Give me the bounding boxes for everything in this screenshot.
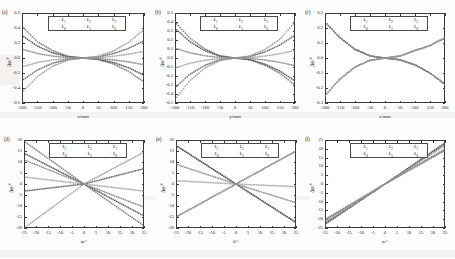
legend-marker-icon: + — [410, 145, 413, 150]
legend-item-l3[interactable]: +L3 — [402, 144, 427, 151]
legend-marker-icon: + — [360, 152, 363, 157]
legend-item-l5[interactable]: +L5 — [376, 151, 401, 158]
legend-label-l5: L5 — [389, 151, 393, 158]
legend-item-l2[interactable]: +L2 — [376, 144, 401, 151]
legend-label-subscript: 5 — [391, 154, 393, 158]
legend-item-l6[interactable]: +L6 — [402, 151, 427, 158]
legend-label-subscript: 6 — [417, 154, 419, 158]
figure-canvas: (a)Δφ/°x/mm-0.6-0.4-0.20.00.20.40.6-200-… — [0, 0, 455, 259]
legend-marker-icon: + — [385, 145, 388, 150]
legend-label-l1: L1 — [363, 144, 367, 151]
legend-item-l1[interactable]: +L1 — [351, 144, 376, 151]
legend-label-l4: L4 — [363, 151, 367, 158]
legend-label-l2: L2 — [389, 144, 393, 151]
legend-label-l6: L6 — [414, 151, 418, 158]
legend-label-l3: L3 — [414, 144, 418, 151]
chart-panel-f: (f)Δφ/°φ/°-25-20-15-10-50510152025-25-20… — [0, 0, 455, 259]
legend-marker-icon: + — [410, 152, 413, 157]
legend-label-subscript: 4 — [366, 154, 368, 158]
curve-layer-f — [0, 0, 455, 259]
legend-f: +L1+L2+L3+L4+L5+L6 — [350, 143, 428, 158]
legend-marker-icon: + — [385, 152, 388, 157]
legend-marker-icon: + — [360, 145, 363, 150]
legend-item-l4[interactable]: +L4 — [351, 151, 376, 158]
